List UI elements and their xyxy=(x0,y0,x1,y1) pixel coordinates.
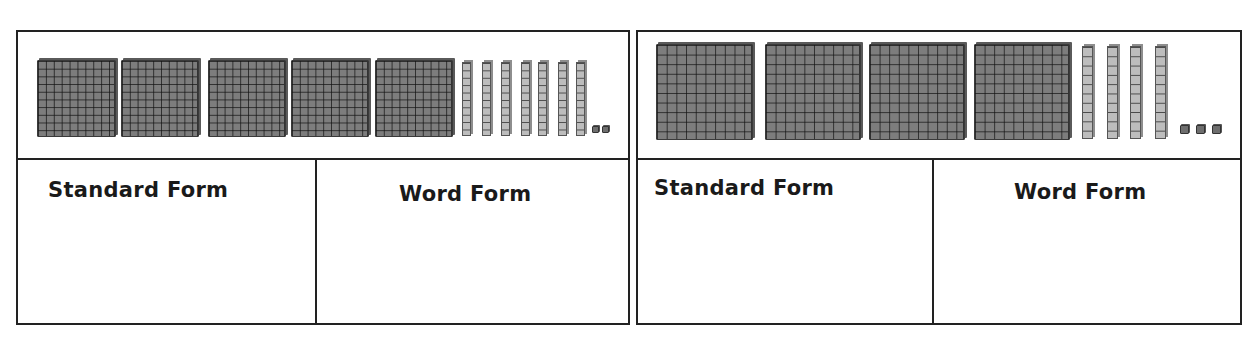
standard-form-cell[interactable]: Standard Form xyxy=(638,158,934,323)
place-value-card-right: Standard Form Word Form xyxy=(636,30,1242,325)
word-form-label: Word Form xyxy=(399,182,531,206)
hundred-flat-block xyxy=(121,60,199,137)
standard-form-label: Standard Form xyxy=(654,176,834,200)
ten-rod-block xyxy=(521,62,530,136)
standard-form-label: Standard Form xyxy=(48,178,228,202)
standard-form-cell[interactable]: Standard Form xyxy=(18,158,317,323)
base-ten-blocks-area xyxy=(18,32,628,160)
ten-rod-block xyxy=(1107,46,1118,139)
hundred-flat-block xyxy=(37,60,116,137)
ten-rod-block xyxy=(1130,46,1141,139)
hundred-flat-block xyxy=(291,60,369,137)
ten-rod-block xyxy=(1155,46,1166,139)
ten-rod-block xyxy=(462,62,471,136)
ten-rod-block xyxy=(558,62,567,136)
hundred-flat-block xyxy=(208,60,286,137)
hundred-flat-block xyxy=(656,44,753,140)
hundred-flat-block xyxy=(375,60,453,137)
place-value-card-left: Standard Form Word Form xyxy=(16,30,630,325)
word-form-cell[interactable]: Word Form xyxy=(317,158,628,323)
one-unit-block xyxy=(602,126,609,133)
one-unit-block xyxy=(592,126,599,133)
ten-rod-block xyxy=(482,62,491,136)
ten-rod-block xyxy=(501,62,510,136)
word-form-label: Word Form xyxy=(1014,180,1146,204)
ten-rod-block xyxy=(1082,46,1093,139)
hundred-flat-block xyxy=(974,44,1070,140)
hundred-flat-block xyxy=(765,44,861,140)
word-form-cell[interactable]: Word Form xyxy=(934,158,1240,323)
ten-rod-block xyxy=(538,62,547,136)
one-unit-block xyxy=(1212,125,1221,134)
one-unit-block xyxy=(1180,125,1189,134)
one-unit-block xyxy=(1196,125,1205,134)
hundred-flat-block xyxy=(869,44,965,140)
base-ten-blocks-area xyxy=(638,32,1240,160)
ten-rod-block xyxy=(576,62,585,136)
